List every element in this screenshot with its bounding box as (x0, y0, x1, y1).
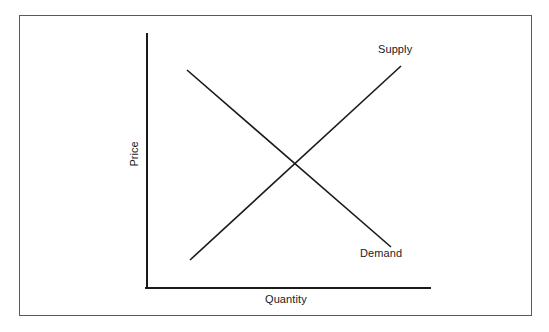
diagram-canvas: Supply Demand Quantity Price (0, 0, 549, 332)
demand-curve-label: Demand (360, 247, 402, 259)
supply-curve (190, 66, 401, 260)
x-axis-label: Quantity (265, 293, 307, 305)
y-axis-label: Price (127, 132, 141, 176)
y-axis-label-wrapper: Price (127, 132, 141, 176)
supply-curve-label: Supply (378, 43, 412, 55)
supply-demand-plot (0, 0, 549, 332)
demand-curve (187, 70, 391, 247)
